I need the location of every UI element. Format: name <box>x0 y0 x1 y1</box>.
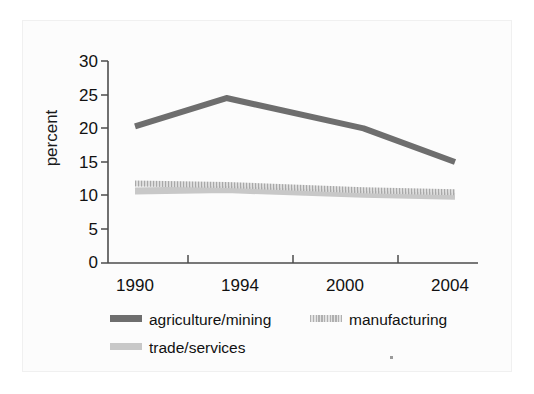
legend-item-manufacturing: manufacturing <box>310 310 447 329</box>
legend-item-agriculture-mining: agriculture/mining <box>110 310 271 329</box>
legend-label-trade-services: trade/services <box>149 339 245 357</box>
series-line-agriculture-mining <box>135 98 455 162</box>
page-artifact-speck <box>390 356 393 359</box>
legend-label-manufacturing: manufacturing <box>349 311 447 329</box>
legend-swatch-trade-services <box>110 343 142 350</box>
legend-item-trade-services: trade/services <box>110 338 245 357</box>
legend-swatch-manufacturing <box>310 315 342 322</box>
y-axis-ticks <box>101 61 108 263</box>
legend-swatch-agriculture-mining <box>110 315 142 322</box>
x-axis-ticks <box>188 255 398 263</box>
chart-page: percent 30 25 20 15 10 5 0 1990 1994 200… <box>0 0 534 394</box>
plot-canvas <box>0 0 534 394</box>
legend-label-agriculture-mining: agriculture/mining <box>149 311 271 329</box>
